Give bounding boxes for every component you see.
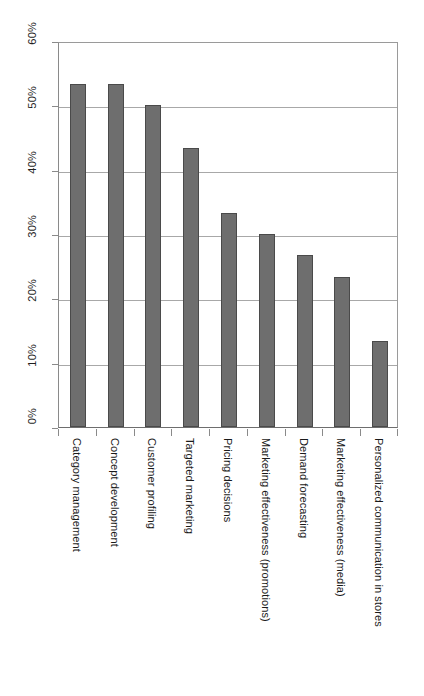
x-axis-category-label: Marketing effectiveness (media) xyxy=(335,438,347,597)
x-axis-tick xyxy=(96,429,97,436)
y-axis-tick-labels: 0%10%20%30%40%50%60% xyxy=(0,0,52,696)
bar[interactable] xyxy=(297,255,313,427)
bar[interactable] xyxy=(372,341,388,427)
x-axis-ticks xyxy=(58,429,398,436)
x-axis-category-labels: Category managementConcept developmentCu… xyxy=(58,438,398,696)
bar[interactable] xyxy=(108,84,124,427)
x-axis-category-label: Targeted marketing xyxy=(184,438,196,534)
x-axis-tick xyxy=(285,429,286,436)
x-axis-category-label: Category management xyxy=(71,438,83,552)
x-axis-category-label: Pricing decisions xyxy=(222,438,234,522)
bar[interactable] xyxy=(183,148,199,427)
bar-slot xyxy=(172,43,210,427)
x-axis-category-label: Demand forecasting xyxy=(298,438,310,538)
x-axis-category-label: Concept development xyxy=(109,438,121,547)
bar-slot xyxy=(361,43,399,427)
bar-slot xyxy=(248,43,286,427)
x-axis-category-label: Marketing effectiveness (promotions) xyxy=(260,438,272,622)
bar-slot xyxy=(323,43,361,427)
x-axis-tick xyxy=(209,429,210,436)
x-axis-tick xyxy=(58,429,59,436)
x-axis-tick xyxy=(134,429,135,436)
bar[interactable] xyxy=(145,105,161,427)
bar-slot xyxy=(97,43,135,427)
bar-slot xyxy=(59,43,97,427)
bar-slot xyxy=(135,43,173,427)
x-axis-tick xyxy=(171,429,172,436)
bar[interactable] xyxy=(221,213,237,427)
bar-slot xyxy=(286,43,324,427)
bar[interactable] xyxy=(334,277,350,427)
plot-area xyxy=(58,42,398,428)
bar-chart-figure: 0%10%20%30%40%50%60% Category management… xyxy=(0,0,424,696)
x-axis-tick xyxy=(247,429,248,436)
y-axis-tick-label: 0% xyxy=(46,428,58,480)
bar[interactable] xyxy=(259,234,275,427)
bars-layer xyxy=(59,43,397,427)
x-axis-category-label: Personalized communication in stores xyxy=(373,438,385,627)
bar[interactable] xyxy=(70,84,86,427)
x-axis-tick xyxy=(322,429,323,436)
x-axis-tick xyxy=(397,429,398,436)
x-axis-category-label: Customer profiling xyxy=(146,438,158,529)
bar-slot xyxy=(210,43,248,427)
x-axis-tick xyxy=(360,429,361,436)
